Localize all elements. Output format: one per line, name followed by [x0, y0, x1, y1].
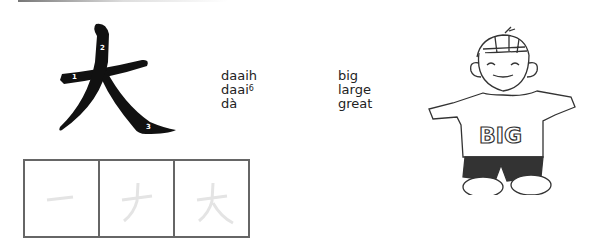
character-stroke-diagram: 1 2 3 — [50, 22, 190, 140]
reading-row: daai6 large — [221, 83, 372, 97]
stroke-number-1: 1 — [72, 73, 77, 81]
meaning: big — [338, 69, 358, 83]
stroke-number-2: 2 — [100, 44, 105, 52]
romanization: dà — [221, 97, 338, 111]
top-rule — [18, 0, 228, 2]
stroke-order-box-3 — [173, 161, 248, 236]
romanization: daai6 — [221, 83, 338, 97]
reading-row: dà great — [221, 97, 372, 111]
stroke-order-box-1 — [25, 161, 98, 236]
reading-row: daaih big — [221, 69, 372, 83]
romanization: daaih — [221, 69, 338, 83]
big-boy-illustration: BIG — [425, 25, 585, 195]
meaning: large — [338, 83, 371, 97]
stroke-order-box-2 — [98, 161, 173, 236]
shirt-text: BIG — [479, 123, 522, 148]
meaning: great — [338, 97, 372, 111]
readings-list: daaih big daai6 large dà great — [221, 69, 372, 111]
stroke-number-3: 3 — [146, 123, 151, 131]
stroke-order-grid — [23, 159, 250, 238]
